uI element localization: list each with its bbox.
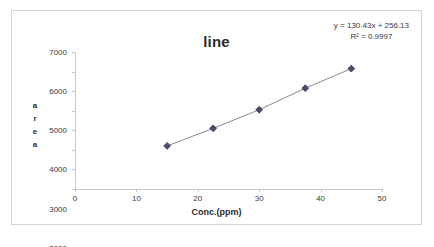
x-tick-mark: 20 bbox=[198, 189, 199, 192]
x-tick-mark: 10 bbox=[136, 189, 137, 192]
x-axis-line: 01020304050 bbox=[75, 189, 383, 190]
trendline-r-squared: R² = 0.9997 bbox=[334, 31, 409, 42]
data-point-marker bbox=[164, 143, 171, 150]
plot-area bbox=[75, 52, 382, 189]
x-tick-mark: 50 bbox=[382, 189, 383, 192]
y-axis-title-letter: a bbox=[29, 138, 41, 151]
x-tick-label: 20 bbox=[193, 194, 202, 203]
x-tick-mark: 0 bbox=[75, 189, 76, 192]
trendline-equation: y = 130.43x + 256.13 bbox=[334, 20, 409, 31]
y-axis-title-letter: a bbox=[29, 99, 41, 112]
y-tick-label: 3000 bbox=[49, 204, 67, 213]
x-tick-label: 30 bbox=[255, 194, 264, 203]
y-axis-title: a r e a bbox=[29, 99, 41, 151]
x-tick-mark: 30 bbox=[259, 189, 260, 192]
data-point-marker bbox=[348, 65, 355, 72]
y-tick-label: 5000 bbox=[49, 126, 67, 135]
y-axis-title-letter: e bbox=[29, 125, 41, 138]
x-tick-label: 0 bbox=[73, 194, 77, 203]
y-axis-title-letter: r bbox=[29, 112, 41, 125]
y-tick-label: 7000 bbox=[49, 48, 67, 57]
data-series-line bbox=[75, 52, 382, 189]
x-tick-mark: 40 bbox=[321, 189, 322, 192]
data-point-marker bbox=[302, 85, 309, 92]
y-tick-label: 4000 bbox=[49, 165, 67, 174]
x-tick-label: 40 bbox=[316, 194, 325, 203]
x-tick-label: 50 bbox=[378, 194, 387, 203]
data-point-marker bbox=[210, 125, 217, 132]
y-tick-label: 2000 bbox=[49, 243, 67, 247]
x-axis-title: Conc.(ppm) bbox=[12, 207, 421, 217]
trendline-annotation: y = 130.43x + 256.13 R² = 0.9997 bbox=[334, 20, 409, 42]
chart-container: line y = 130.43x + 256.13 R² = 0.9997 a … bbox=[11, 10, 422, 225]
y-tick-label: 6000 bbox=[49, 87, 67, 96]
x-tick-label: 10 bbox=[132, 194, 141, 203]
data-point-marker bbox=[256, 106, 263, 113]
